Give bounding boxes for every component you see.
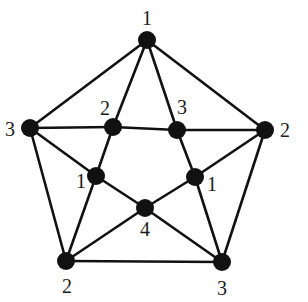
edge-right-ilr [195,130,265,177]
edge-bl-center [66,208,145,261]
edge-iul-iur [113,127,177,130]
node-bl [57,252,75,270]
node-iur [168,121,186,139]
node-label-iul: 2 [100,97,110,119]
edge-left-bl [30,128,66,261]
node-label-left: 3 [5,118,15,140]
node-label-ill: 1 [76,170,86,192]
edge-top-iur [147,40,177,130]
node-label-iur: 3 [177,96,187,118]
node-label-br: 3 [217,277,227,299]
node-label-center: 4 [140,218,150,240]
node-ilr [186,168,204,186]
node-ill [87,167,105,185]
node-iul [104,118,122,136]
graph-svg: 1322311423 [0,0,308,302]
node-label-ilr: 1 [207,173,217,195]
graph-diagram: 1322311423 [0,0,308,302]
node-left [21,119,39,137]
edge-left-iul [30,127,113,128]
edge-bl-br [66,261,222,262]
node-right [256,121,274,139]
edge-br-center [145,208,222,262]
node-top [138,31,156,49]
labels-group: 1322311423 [5,7,290,299]
node-br [213,253,231,271]
edge-top-right [147,40,265,130]
node-label-bl: 2 [62,275,72,297]
node-center [136,199,154,217]
node-label-top: 1 [142,7,152,29]
node-label-right: 2 [280,119,290,141]
edge-right-br [222,130,265,262]
